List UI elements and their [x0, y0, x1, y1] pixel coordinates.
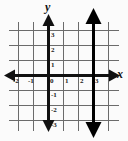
- y-tick-label-minus2: -2: [51, 107, 57, 114]
- y-tick-label-2: 2: [51, 47, 55, 54]
- coordinate-plane-figure: -2 -1 1 2 3 0 3 2 1 -1 -2 -3 y x: [0, 0, 128, 141]
- plotted-line-top-arrowhead: [86, 8, 102, 24]
- x-tick-label-3: 3: [95, 78, 99, 85]
- x-tick-label-1: 1: [65, 78, 69, 85]
- x-tick-label-2: 2: [80, 78, 84, 85]
- y-tick-label-minus1: -1: [51, 92, 57, 99]
- plotted-line-x-equals-3: [86, 8, 102, 138]
- y-tick-label-1: 1: [51, 62, 55, 69]
- x-tick-label-minus2: -2: [13, 78, 19, 85]
- y-tick-label-3: 3: [51, 32, 55, 39]
- x-axis-label: x: [117, 68, 123, 80]
- x-axis: [4, 70, 120, 82]
- plotted-line-bottom-arrowhead: [86, 122, 102, 138]
- y-tick-label-minus3: -3: [51, 122, 57, 129]
- y-axis-top-arrowhead: [43, 14, 55, 26]
- y-axis-label: y: [45, 1, 50, 13]
- coordinate-plane-svg: [0, 0, 128, 141]
- x-tick-label-minus1: -1: [28, 78, 34, 85]
- origin-label: 0: [50, 78, 54, 85]
